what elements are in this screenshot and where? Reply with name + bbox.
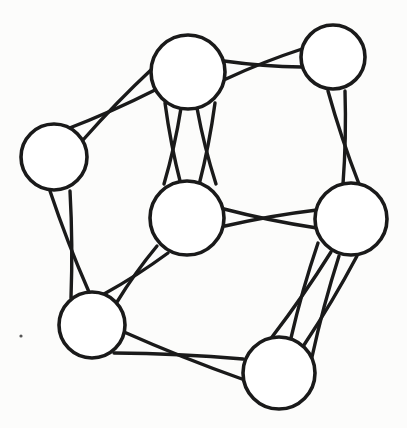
edge-strand-2b: [304, 256, 357, 345]
edge-strand-2a: [312, 256, 339, 357]
node-center: [150, 181, 224, 255]
edge-strand-1b: [104, 253, 168, 294]
edge-strand-1b: [83, 68, 153, 140]
node-bottom-left: [59, 292, 125, 358]
node-left: [21, 124, 87, 190]
marks-layer: [19, 334, 22, 337]
edge-top-middle-to-center: [164, 103, 216, 185]
graph-diagram: [0, 0, 407, 428]
edge-top-middle-to-top-right: [224, 49, 302, 79]
edge-center-to-bottom-left: [104, 246, 168, 302]
node-top-right: [301, 25, 365, 89]
edge-strand-1b: [70, 191, 72, 298]
speck-mark: [19, 334, 22, 337]
edge-left-to-top-middle: [67, 68, 155, 140]
node-right-middle: [315, 183, 387, 255]
nodes-layer: [21, 25, 387, 409]
edge-left-to-bottom-left: [50, 191, 89, 298]
edge-bottom-left-to-bottom-right: [114, 332, 243, 379]
edge-center-to-right-middle: [224, 209, 317, 228]
edge-strand-1b: [272, 252, 331, 337]
edge-strand-1b: [114, 353, 243, 359]
edge-top-right-to-right-middle: [328, 91, 359, 184]
node-top-middle: [151, 35, 225, 109]
node-bottom-right: [243, 337, 315, 409]
diagram-canvas: [0, 0, 407, 428]
